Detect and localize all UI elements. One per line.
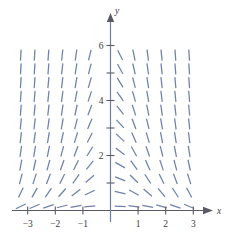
slope-segment: [87, 147, 93, 156]
slope-segment: [20, 105, 21, 116]
slope-segment: [142, 205, 153, 207]
slope-segment: [174, 146, 176, 157]
slope-segment: [47, 160, 50, 171]
x-axis-group: [12, 207, 213, 215]
slope-segment: [187, 188, 192, 198]
slope-segment: [146, 146, 150, 156]
slope-segment: [33, 174, 36, 184]
slope-segment: [47, 146, 49, 157]
slope-segment: [145, 174, 151, 183]
slope-segment: [147, 119, 150, 130]
slope-segment: [116, 120, 123, 128]
slope-segment: [34, 50, 35, 61]
slope-segment: [48, 63, 49, 74]
slope-segment: [20, 77, 21, 88]
slope-segment: [170, 205, 180, 209]
slope-segment: [61, 91, 63, 102]
slope-segment: [175, 77, 176, 88]
slope-segment: [75, 50, 77, 61]
slope-segment: [16, 204, 26, 209]
slope-segment: [131, 147, 136, 157]
slope-segment: [115, 162, 125, 167]
slope-segment: [34, 105, 35, 116]
slope-segment: [189, 118, 190, 129]
slope-segment: [132, 133, 136, 143]
x-tick-label: 3: [191, 219, 196, 229]
slope-segment: [161, 91, 162, 102]
slope-segment: [117, 78, 123, 87]
slope-segment: [48, 77, 49, 88]
slope-segment: [74, 160, 79, 170]
slope-segment: [189, 50, 190, 61]
y-tick-label: 2: [99, 151, 104, 161]
slope-segment: [175, 118, 176, 129]
x-axis-label: x: [216, 206, 222, 216]
slope-segment: [75, 91, 77, 102]
slope-segment: [188, 174, 191, 185]
slope-segment: [86, 161, 93, 170]
slope-segment: [158, 188, 165, 196]
slope-segment: [62, 63, 63, 74]
slope-segment: [61, 105, 63, 116]
slope-segment: [85, 190, 95, 195]
slope-segment: [20, 132, 21, 143]
slope-segment: [147, 63, 149, 74]
slope-segment: [19, 174, 22, 185]
slope-segment: [188, 160, 190, 171]
x-tick-label: 1: [136, 219, 141, 229]
slope-segment: [172, 188, 178, 197]
slope-segment: [133, 77, 136, 88]
slope-segment: [48, 91, 49, 102]
slope-segment: [188, 132, 189, 143]
slope-segment: [161, 63, 162, 74]
slope-segment: [48, 118, 50, 129]
slope-segment: [88, 91, 91, 101]
slope-segment: [32, 188, 37, 198]
slope-segment: [133, 50, 135, 61]
slope-segment: [87, 133, 92, 143]
y-axis-label: y: [114, 6, 120, 16]
y-tick-label: 6: [99, 41, 104, 51]
slope-segment: [61, 118, 63, 129]
slope-segment: [146, 160, 151, 170]
slope-segment: [21, 50, 22, 61]
slope-segment: [129, 190, 139, 195]
x-tick-label: 2: [163, 219, 168, 229]
slope-segment: [74, 132, 77, 143]
slope-segment: [74, 146, 78, 156]
slope-segment: [173, 174, 177, 184]
slope-segment: [34, 77, 35, 88]
slope-segment: [175, 63, 176, 74]
slope-segment: [175, 91, 176, 102]
slope-segment: [88, 77, 91, 88]
slope-segment: [189, 77, 190, 88]
slope-segment: [72, 189, 81, 196]
slope-segment: [161, 77, 162, 88]
y-axis-tick-labels: 246: [99, 41, 104, 161]
slope-segment: [133, 64, 135, 75]
slope-segment: [147, 77, 149, 88]
slope-segment: [115, 191, 126, 193]
slope-segment: [184, 204, 194, 208]
slope-segment: [161, 50, 162, 61]
slope-segment: [88, 105, 92, 115]
slope-segment: [84, 206, 95, 207]
slope-field-segments: [16, 50, 194, 209]
slope-segment: [30, 204, 40, 208]
slope-segment: [18, 188, 23, 198]
slope-segment: [117, 106, 124, 115]
slope-segment: [117, 64, 122, 74]
slope-field-figure: −3−2−1123 246 x y: [0, 0, 233, 242]
slope-segment: [189, 105, 190, 116]
slope-segment: [33, 160, 35, 171]
slope-segment: [34, 146, 36, 157]
slope-segment: [48, 105, 49, 116]
slope-segment: [61, 146, 64, 157]
slope-segment: [75, 119, 78, 130]
slope-segment: [188, 146, 190, 157]
slope-segment: [144, 189, 152, 196]
slope-segment: [20, 146, 22, 157]
slope-segment: [159, 174, 164, 184]
slope-segment: [20, 160, 22, 171]
x-tick-label: −3: [23, 219, 33, 229]
